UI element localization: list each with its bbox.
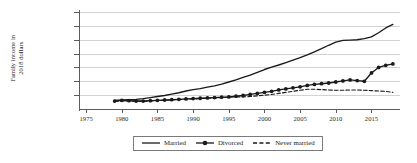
income-by-marital-status-chart: Family income in 2018 dollars $20,000$40… [0,0,417,163]
series-marker [377,66,381,70]
series-line-married [115,24,393,100]
series-marker [234,94,238,98]
series-marker [384,63,388,67]
legend-swatch-divorced [195,139,215,147]
series-marker [248,93,252,97]
legend-label-never-married: Never married [275,140,314,147]
series-marker [348,78,352,82]
series-marker [370,71,374,75]
legend-swatch-married [141,139,161,147]
chart-legend: Married Divorced Never married [133,136,323,151]
series-marker [362,79,366,83]
series-marker [263,90,267,94]
series-marker [291,86,295,90]
legend-item-never-married: Never married [252,139,314,147]
series-marker [284,87,288,91]
legend-swatch-never-married [252,139,272,147]
series-marker [255,92,259,96]
series-marker [277,88,281,92]
legend-label-married: Married [164,140,186,147]
series-line-divorced [115,64,393,101]
series-marker [341,79,345,83]
series-marker [313,83,317,87]
series-marker [391,62,395,66]
series-marker [298,85,302,89]
legend-label-divorced: Divorced [218,140,243,147]
series-marker [305,84,309,88]
series-marker [270,89,274,93]
series-marker [320,82,324,86]
legend-item-divorced: Divorced [195,139,243,147]
series-marker [327,81,331,85]
series-marker [355,79,359,83]
series-marker [334,80,338,84]
legend-item-married: Married [141,139,186,147]
